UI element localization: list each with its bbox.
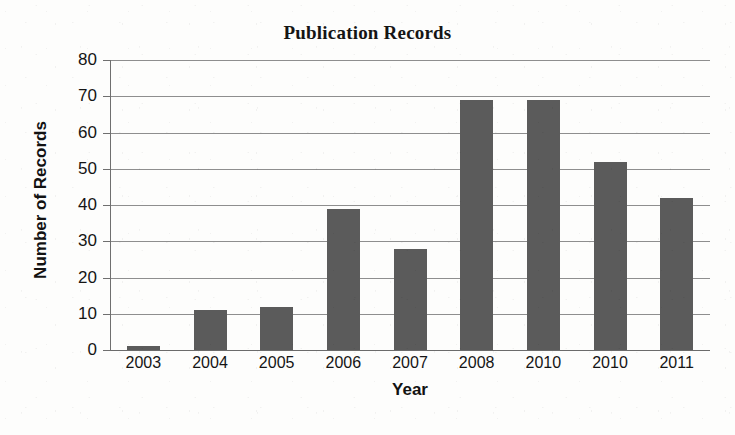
y-axis-tick-label: 70 bbox=[37, 87, 97, 104]
gridline bbox=[110, 133, 710, 134]
gridline bbox=[110, 350, 710, 351]
y-axis-tick-labels: 01020304050607080 bbox=[35, 0, 97, 435]
y-axis-tick-label: 80 bbox=[37, 51, 97, 68]
y-axis-tick bbox=[103, 241, 111, 242]
bar bbox=[127, 346, 160, 350]
y-axis-tick-label: 50 bbox=[37, 160, 97, 177]
y-axis-tick bbox=[103, 314, 111, 315]
bar bbox=[394, 249, 427, 351]
y-axis-tick-label: 0 bbox=[37, 341, 97, 358]
plot-area bbox=[110, 60, 710, 350]
y-axis-tick-label: 40 bbox=[37, 196, 97, 213]
x-axis-tick-label: 2011 bbox=[637, 353, 717, 372]
y-axis-tick bbox=[103, 278, 111, 279]
y-axis-tick bbox=[103, 133, 111, 134]
bar bbox=[194, 310, 227, 350]
x-axis-title: Year bbox=[110, 380, 710, 400]
y-axis-tick-label: 30 bbox=[37, 232, 97, 249]
y-axis-tick-label: 60 bbox=[37, 124, 97, 141]
y-axis-tick bbox=[103, 169, 111, 170]
bar-chart-figure: Publication Records Number of Records 01… bbox=[0, 0, 735, 435]
bar bbox=[594, 162, 627, 351]
gridline bbox=[110, 60, 710, 61]
gridline bbox=[110, 96, 710, 97]
y-axis-tick bbox=[103, 96, 111, 97]
bar bbox=[260, 307, 293, 351]
y-axis-tick bbox=[103, 350, 111, 351]
bar bbox=[660, 198, 693, 350]
y-axis-tick-label: 10 bbox=[37, 305, 97, 322]
chart-title: Publication Records bbox=[0, 22, 735, 44]
y-axis-tick bbox=[103, 205, 111, 206]
y-axis-tick bbox=[103, 60, 111, 61]
bar bbox=[327, 209, 360, 350]
bar bbox=[460, 100, 493, 350]
bar bbox=[527, 100, 560, 350]
y-axis-tick-label: 20 bbox=[37, 269, 97, 286]
